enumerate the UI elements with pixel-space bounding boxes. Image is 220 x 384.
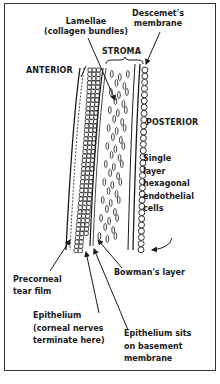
label-basement-line2: on basement [124,341,191,354]
label-lamellae-line2: (collagen bundles) [38,27,134,37]
epithelium-leader [86,252,99,313]
label-endothelium-line2: layer [143,166,194,179]
label-epithelium-line3: terminate here) [33,335,105,348]
label-endothelium-line5: cells [143,203,194,216]
label-stroma: STROMA [102,47,141,57]
epithelium-cells [74,68,100,253]
label-lamellae-line1: Lamellae [38,17,134,27]
label-posterior: POSTERIOR [146,118,198,128]
endothelium-leader [152,238,172,250]
label-anterior: ANTERIOR [26,66,73,76]
label-epithelium: Epithelium (corneal nerves terminate her… [33,310,105,348]
label-epithelium-line1: Epithelium [33,310,105,323]
label-endothelium-line3: hexagonal [143,178,194,191]
label-tear-film-line1: Precorneal [13,274,62,286]
tear-film-leader [50,240,70,271]
descemet-line [133,64,140,250]
label-endothelium-line1: Single [143,153,194,166]
label-lamellae: Lamellae (collagen bundles) [38,17,134,37]
label-tear-film: Precorneal tear film [13,274,62,298]
label-descemet-line2: membrane [128,19,188,29]
label-endothelium: Single layer hexagonal endothelial cells [143,153,194,216]
label-epithelium-line2: (corneal nerves [33,323,105,336]
label-descemet: Descemet's membrane [128,9,188,29]
label-basement: Epithelium sits on basement membrane [124,328,191,366]
label-basement-line1: Epithelium sits [124,328,191,341]
label-bowman: Bowman's layer [114,268,185,278]
label-endothelium-line4: endothelial [143,191,194,204]
descemet-leader [146,32,160,64]
label-tear-film-line2: tear film [13,286,62,298]
bowman-leader [98,240,122,268]
label-basement-line3: membrane [124,353,191,366]
label-descemet-line1: Descemet's [128,9,188,19]
stroma-brace [106,57,143,64]
